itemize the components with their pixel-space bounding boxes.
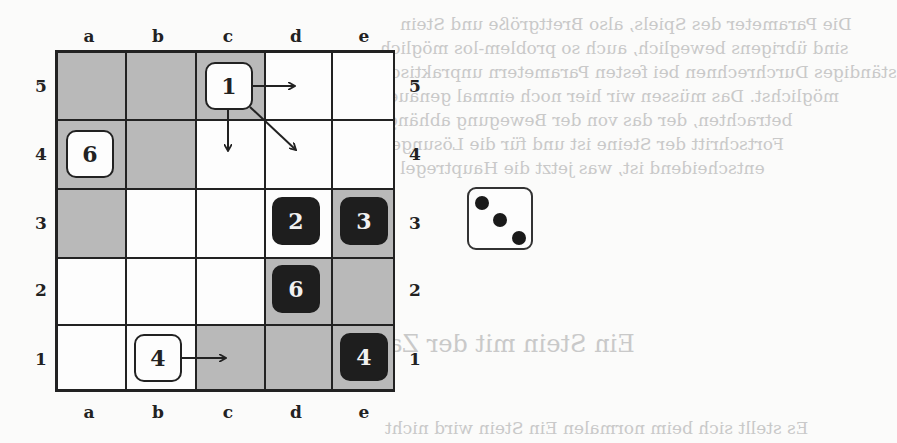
square-c4[interactable] xyxy=(197,121,266,190)
row-label-left-2: 2 xyxy=(26,280,56,300)
square-d1[interactable] xyxy=(266,326,333,389)
col-label-bottom-e: e xyxy=(349,402,379,422)
row-label-left-3: 3 xyxy=(26,213,56,233)
square-c1[interactable] xyxy=(197,326,266,389)
col-label-top-e: e xyxy=(349,26,379,46)
piece-d2-dark[interactable]: 6 xyxy=(272,265,320,313)
die-pip xyxy=(493,213,507,227)
row-label-right-3: 3 xyxy=(400,213,430,233)
col-label-bottom-a: a xyxy=(74,402,104,422)
square-a1[interactable] xyxy=(58,326,127,389)
square-b2[interactable] xyxy=(127,259,197,326)
row-label-right-2: 2 xyxy=(400,280,430,300)
square-b3[interactable] xyxy=(127,190,197,259)
square-e5[interactable] xyxy=(333,53,393,121)
col-label-bottom-d: d xyxy=(281,402,311,422)
row-label-right-4: 4 xyxy=(400,144,430,164)
die-pip xyxy=(475,196,489,210)
bleed-line: Die Parameter des Spiels, also Brettgröß… xyxy=(400,14,852,34)
square-b5[interactable] xyxy=(127,53,197,121)
die-pip xyxy=(512,231,526,245)
square-c3[interactable] xyxy=(197,190,266,259)
row-label-left-1: 1 xyxy=(26,349,56,369)
piece-a4-light[interactable]: 6 xyxy=(66,130,114,178)
bleed-line: möglichst. Das müssen wir hier noch einm… xyxy=(380,86,839,106)
square-a5[interactable] xyxy=(58,53,127,121)
piece-c5-light[interactable]: 1 xyxy=(205,62,253,110)
col-label-top-a: a xyxy=(74,26,104,46)
square-d4[interactable] xyxy=(266,121,333,190)
square-d5[interactable] xyxy=(266,53,333,121)
col-label-top-d: d xyxy=(281,26,311,46)
piece-e3-dark[interactable]: 3 xyxy=(340,197,388,245)
square-a2[interactable] xyxy=(58,259,127,326)
die-face-three-icon[interactable] xyxy=(467,187,533,250)
row-label-left-4: 4 xyxy=(26,144,56,164)
bleed-line: Fortschritt der Steine ist und für die L… xyxy=(380,134,784,154)
row-label-left-5: 5 xyxy=(26,76,56,96)
bleed-line: betrachten, der das von der Bewegung abh… xyxy=(380,110,792,130)
col-label-top-b: b xyxy=(143,26,173,46)
row-label-right-5: 5 xyxy=(400,76,430,96)
col-label-bottom-b: b xyxy=(143,402,173,422)
square-b4[interactable] xyxy=(127,121,197,190)
col-label-bottom-c: c xyxy=(213,402,243,422)
piece-e1-dark[interactable]: 4 xyxy=(340,333,388,381)
row-label-right-1: 1 xyxy=(400,349,430,369)
col-label-top-c: c xyxy=(213,26,243,46)
square-e2[interactable] xyxy=(333,259,393,326)
square-e4[interactable] xyxy=(333,121,393,190)
piece-d3-dark[interactable]: 2 xyxy=(272,197,320,245)
bleed-line: ständiges Durchrechnen bei festen Parame… xyxy=(380,62,897,82)
square-c2[interactable] xyxy=(197,259,266,326)
bleed-line: entscheidend ist, was jetzt die Hauptreg… xyxy=(400,158,765,178)
square-a3[interactable] xyxy=(58,190,127,259)
bleed-line: Es stellt sich beim normalen Ein Stein w… xyxy=(385,418,808,438)
bleed-line: sind übrigens beweglich, auch so problem… xyxy=(380,38,849,58)
piece-b1-light[interactable]: 4 xyxy=(134,334,182,382)
